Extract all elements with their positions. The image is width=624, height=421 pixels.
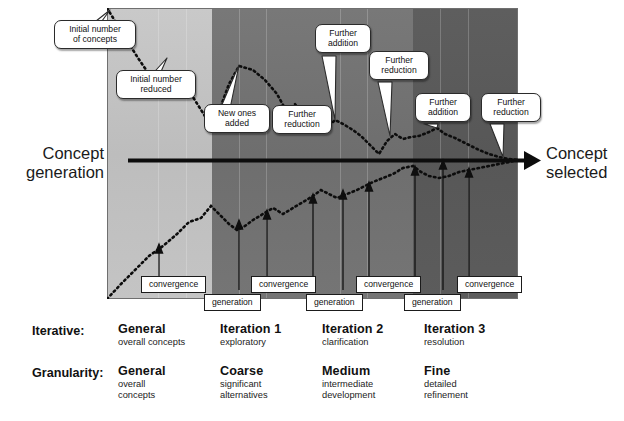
tag-generation-3: generation — [404, 294, 461, 311]
tag-convergence-4: convergence — [457, 276, 522, 293]
callout-further-addition-1: Further addition — [315, 24, 371, 53]
legend-title: General — [118, 364, 218, 378]
tag-convergence-2: convergence — [251, 276, 316, 293]
legend-subtitle: significant alternatives — [220, 379, 320, 401]
legend-cell-iterative-iteration-1: Iteration 1 exploratory — [220, 322, 320, 348]
callout-further-addition-2: Further addition — [415, 93, 471, 122]
legend-title: Iteration 2 — [322, 322, 422, 336]
callout-new-ones-added: New ones added — [204, 104, 270, 133]
tag-convergence-3: convergence — [356, 276, 421, 293]
callout-tail-further-addition-2 — [424, 124, 438, 128]
legend-title: Iteration 1 — [220, 322, 320, 336]
legend-subtitle: overall concepts — [118, 379, 218, 401]
legend-cell-granularity-medium: Medium intermediate development — [322, 364, 422, 401]
legend-subtitle: overall concepts — [118, 337, 218, 348]
legend-title: Coarse — [220, 364, 320, 378]
legend-subtitle: exploratory — [220, 337, 320, 348]
callout-further-reduction-3: Further reduction — [481, 93, 541, 122]
callout-initial-number-reduced: Initial number reduced — [116, 70, 196, 99]
legend-subtitle: resolution — [424, 337, 524, 348]
legend-cell-iterative-iteration-3: Iteration 3 resolution — [424, 322, 524, 348]
legend-cell-granularity-coarse: Coarse significant alternatives — [220, 364, 320, 401]
callout-tail-further-reduction-3 — [490, 124, 504, 157]
tag-generation-1: generation — [204, 294, 261, 311]
axis-label-concept-selected: Concept selected — [546, 144, 624, 182]
legend-cell-iterative-general: General overall concepts — [118, 322, 218, 348]
legend-title: Medium — [322, 364, 422, 378]
callout-further-reduction-1: Further reduction — [272, 105, 332, 134]
tag-generation-2: generation — [306, 294, 363, 311]
callout-tail-further-reduction-2 — [378, 82, 392, 136]
legend-row-label-iterative: Iterative: — [32, 324, 85, 338]
legend-subtitle: clarification — [322, 337, 422, 348]
axis-label-concept-generation: Concept generation — [8, 144, 104, 182]
callout-further-reduction-2: Further reduction — [369, 51, 429, 80]
legend-cell-granularity-general: General overall concepts — [118, 364, 218, 401]
legend-cell-iterative-iteration-2: Iteration 2 clarification — [322, 322, 422, 348]
legend-cell-granularity-fine: Fine detailed refinement — [424, 364, 524, 401]
legend-title: Fine — [424, 364, 524, 378]
tag-convergence-1: convergence — [141, 276, 206, 293]
legend-title: Iteration 3 — [424, 322, 524, 336]
convergence-arrow-group — [155, 160, 472, 290]
callout-initial-number-of-concepts: Initial number of concepts — [54, 20, 136, 49]
chart-vector-layer — [0, 0, 624, 421]
legend-title: General — [118, 322, 218, 336]
diagram-canvas: Concept generation Concept selected Init… — [0, 0, 624, 421]
legend-row-label-granularity: Granularity: — [32, 366, 103, 380]
legend-subtitle: detailed refinement — [424, 379, 524, 401]
legend-subtitle: intermediate development — [322, 379, 422, 401]
